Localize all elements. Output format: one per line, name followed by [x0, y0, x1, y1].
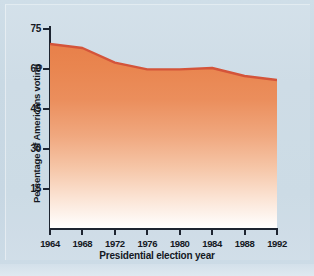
- figure-bottom-strip: [0, 264, 314, 276]
- y-tick-60: [43, 68, 50, 70]
- y-tick-30: [43, 148, 50, 150]
- plot-area: 1530456075 19641968197219761980198419881…: [50, 28, 277, 228]
- x-tick-1992: [276, 228, 278, 235]
- y-axis-title-wrapper: Percentage of Americans voting: [22, 24, 36, 232]
- x-tick-1980: [179, 228, 181, 235]
- x-tick-label-1988: 1988: [235, 238, 255, 249]
- x-tick-1976: [146, 228, 148, 235]
- x-tick-1988: [244, 228, 246, 235]
- x-tick-label-1984: 1984: [202, 238, 222, 249]
- x-tick-1984: [211, 228, 213, 235]
- x-axis-title: Presidential election year: [0, 250, 314, 261]
- y-tick-45: [43, 108, 50, 110]
- y-axis-title: Percentage of Americans voting: [31, 34, 42, 234]
- area-chart-svg: [50, 28, 277, 228]
- y-tick-75: [43, 28, 50, 30]
- figure-background: 1530456075 19641968197219761980198419881…: [0, 0, 314, 276]
- y-tick-15: [43, 188, 50, 190]
- x-tick-1968: [81, 228, 83, 235]
- area-fill: [50, 44, 277, 228]
- x-tick-label-1964: 1964: [40, 238, 60, 249]
- x-tick-label-1976: 1976: [138, 238, 158, 249]
- x-tick-label-1972: 1972: [105, 238, 125, 249]
- x-tick-1972: [114, 228, 116, 235]
- x-tick-1964: [49, 228, 51, 235]
- x-tick-label-1980: 1980: [170, 238, 190, 249]
- x-tick-label-1968: 1968: [73, 238, 93, 249]
- x-tick-label-1992: 1992: [267, 238, 287, 249]
